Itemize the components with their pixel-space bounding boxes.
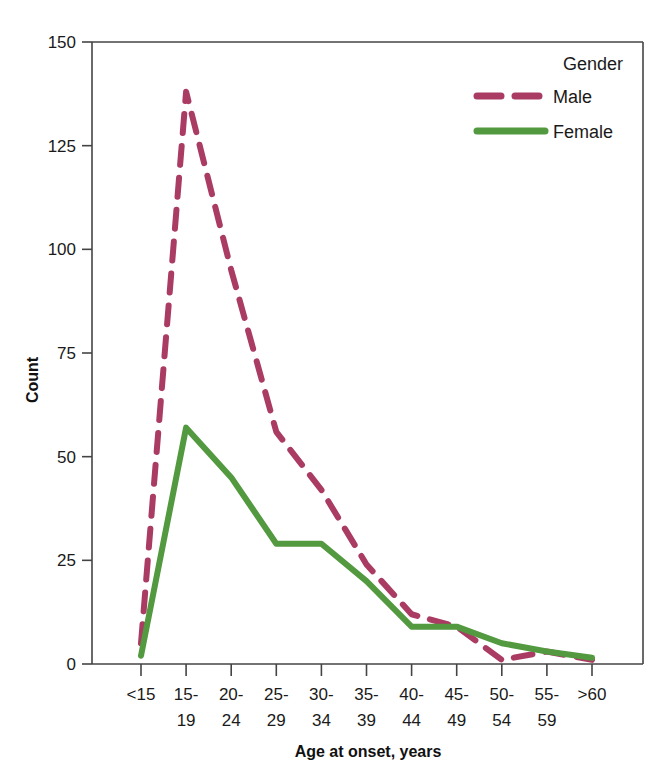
y-tick-label: 25	[57, 551, 76, 570]
x-tick-label: 39	[357, 711, 376, 730]
x-tick-label: 25-	[264, 685, 289, 704]
x-tick-label: 15-	[174, 685, 199, 704]
x-tick-label: 54	[492, 711, 511, 730]
chart-background	[0, 0, 667, 765]
x-tick-label: 24	[222, 711, 241, 730]
y-tick-label: 125	[48, 137, 76, 156]
legend-label-female: Female	[553, 122, 613, 142]
y-tick-label: 75	[57, 344, 76, 363]
x-tick-label: 55-	[535, 685, 560, 704]
y-tick-label: 150	[48, 33, 76, 52]
x-axis-title: Age at onset, years	[295, 743, 442, 760]
y-tick-label: 50	[57, 448, 76, 467]
x-tick-label: 30-	[309, 685, 334, 704]
x-tick-label: <15	[127, 685, 156, 704]
x-tick-label: 44	[402, 711, 421, 730]
y-tick-label: 0	[67, 655, 76, 674]
chart-figure: 0255075100125150 <1515-1920-2425-2930-34…	[0, 0, 667, 765]
x-tick-label: >60	[578, 685, 607, 704]
x-tick-label: 35-	[354, 685, 379, 704]
x-tick-label: 59	[537, 711, 556, 730]
y-axis-title: Count	[24, 356, 41, 403]
legend-label-male: Male	[553, 87, 592, 107]
x-tick-label: 40-	[399, 685, 424, 704]
x-tick-label: 50-	[490, 685, 515, 704]
x-tick-label: 45-	[444, 685, 469, 704]
x-tick-label: 19	[177, 711, 196, 730]
y-tick-label: 100	[48, 240, 76, 259]
x-tick-label: 34	[312, 711, 331, 730]
x-tick-label: 20-	[219, 685, 244, 704]
x-tick-label: 29	[267, 711, 286, 730]
x-tick-label: 49	[447, 711, 466, 730]
legend-title: Gender	[563, 54, 623, 74]
